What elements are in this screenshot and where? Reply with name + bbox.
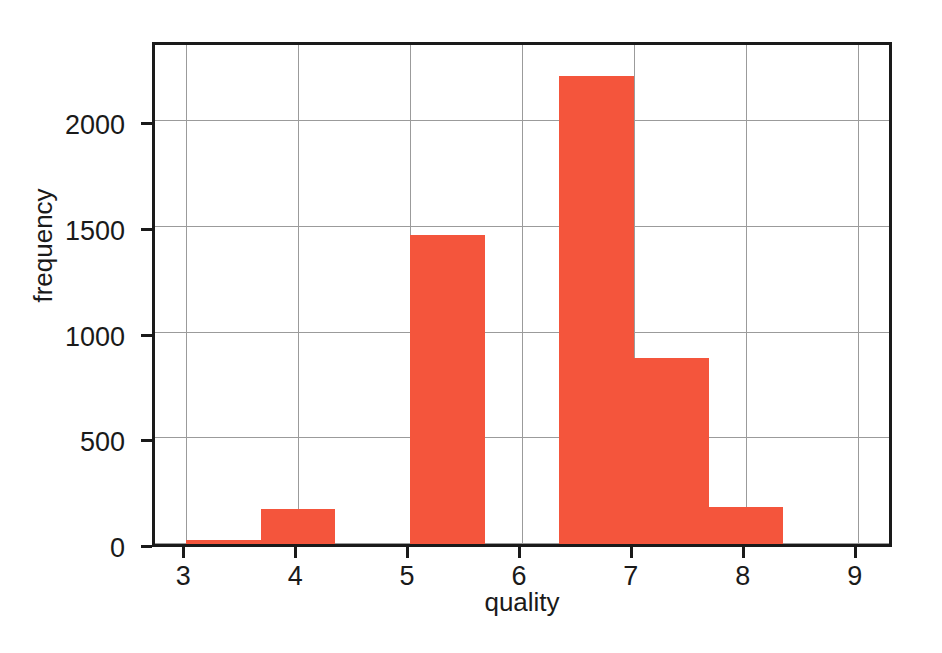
histogram-bar bbox=[634, 358, 709, 544]
y-tick-label: 1000 bbox=[65, 322, 125, 353]
y-axis-title: frequency bbox=[28, 96, 59, 396]
histogram-bar bbox=[261, 509, 336, 544]
y-tick-label: 0 bbox=[110, 533, 125, 564]
x-tick-mark bbox=[182, 547, 185, 558]
x-tick-mark bbox=[742, 547, 745, 558]
x-tick-mark bbox=[630, 547, 633, 558]
x-tick-mark bbox=[294, 547, 297, 558]
y-tick-mark bbox=[141, 545, 152, 548]
bar-series bbox=[155, 45, 889, 544]
y-tick-mark bbox=[141, 439, 152, 442]
histogram-bar bbox=[410, 235, 485, 544]
y-tick-mark bbox=[141, 228, 152, 231]
y-tick-mark bbox=[141, 122, 152, 125]
plot-area bbox=[152, 42, 892, 547]
y-tick-mark bbox=[141, 334, 152, 337]
y-axis: 0500100015002000 bbox=[0, 42, 141, 547]
x-axis-title: quality bbox=[152, 587, 892, 618]
x-tick-mark bbox=[406, 547, 409, 558]
histogram-bar bbox=[559, 76, 634, 544]
histogram-figure: 0500100015002000 3456789 quality frequen… bbox=[0, 0, 942, 653]
y-tick-label: 500 bbox=[80, 427, 125, 458]
x-tick-mark bbox=[518, 547, 521, 558]
y-tick-label: 1500 bbox=[65, 216, 125, 247]
y-tick-label: 2000 bbox=[65, 110, 125, 141]
x-tick-mark bbox=[854, 547, 857, 558]
histogram-bar bbox=[709, 507, 784, 544]
histogram-bar bbox=[186, 540, 261, 544]
